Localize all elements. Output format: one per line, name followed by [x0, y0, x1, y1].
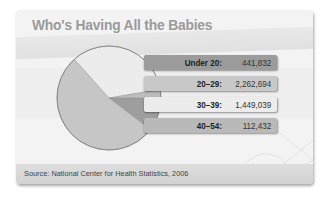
- legend-bar-under-20: Under 20: 441,832: [144, 55, 277, 70]
- legend-bar-30-39: 30–39: 1,449,039: [144, 97, 277, 112]
- legend-bar-20-29: 20–29: 2,262,694: [144, 76, 277, 91]
- legend-label: 30–39:: [197, 100, 222, 110]
- legend-value: 441,832: [242, 58, 271, 68]
- legend-value: 2,262,694: [235, 79, 271, 89]
- legend-bars: Under 20: 441,832 20–29: 2,262,694 30–39…: [144, 55, 284, 139]
- legend-label: 40–54:: [197, 121, 222, 131]
- legend-bar-40-54: 40–54: 112,432: [144, 118, 277, 133]
- source-text: Source: National Center for Health Stati…: [24, 169, 188, 178]
- chart-card: Who's Having All the Babies Under 20: 44…: [16, 10, 313, 184]
- legend-label: Under 20:: [185, 58, 222, 68]
- legend-value: 112,432: [243, 121, 272, 131]
- chart-title: Who's Having All the Babies: [32, 16, 212, 33]
- legend-label: 20–29:: [197, 79, 222, 89]
- source-footer: Source: National Center for Health Stati…: [16, 164, 313, 184]
- legend-value: 1,449,039: [235, 100, 271, 110]
